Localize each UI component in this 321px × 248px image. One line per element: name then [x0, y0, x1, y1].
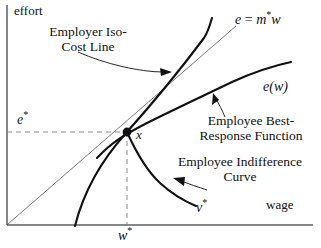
annotation-employee-indifference: Employee Indifference Curve [163, 155, 317, 184]
x-tick-superscript: * [127, 225, 132, 236]
annotation-indifference-line-2: Curve [163, 170, 317, 185]
x-tick-symbol: w [118, 228, 127, 243]
annotation-iso-cost-line-2: Cost Line [33, 40, 143, 55]
y-tick-superscript: * [23, 109, 28, 120]
annotation-best-response-line-2: Response Function [186, 129, 316, 144]
tangency-point-label: x [136, 128, 142, 142]
economics-diagram-figure: effort wage e* w* x e = m*w e(w) v* Empl… [0, 0, 321, 248]
annotation-employee-best-response: Employee Best- Response Function [186, 114, 316, 143]
annotation-indifference-line-1: Employee Indifference [163, 155, 317, 170]
y-tick-label-e-star: e* [17, 110, 28, 127]
employee-best-response-curve [97, 62, 291, 158]
y-axis-title: effort [14, 4, 43, 18]
x-axis-title: wage [266, 198, 293, 212]
ray-wage-symbol: w [271, 12, 280, 27]
tangency-point-marker [123, 128, 132, 137]
indifference-curve-label: v* [196, 198, 207, 215]
indifference-superscript: * [202, 197, 207, 208]
annotation-employer-iso-cost: Employer Iso- Cost Line [33, 25, 143, 54]
x-tick-label-w-star: w* [118, 226, 132, 243]
iso-cost-leader-arrow [78, 52, 172, 76]
ray-equals-sign: = [245, 12, 253, 27]
best-response-curve-label: e(w) [263, 79, 288, 94]
ray-equation-label: e = m*w [235, 10, 281, 27]
annotation-iso-cost-line-1: Employer Iso- [33, 25, 143, 40]
annotation-best-response-line-1: Employee Best- [186, 114, 316, 129]
ray-slope-symbol: m [256, 12, 266, 27]
